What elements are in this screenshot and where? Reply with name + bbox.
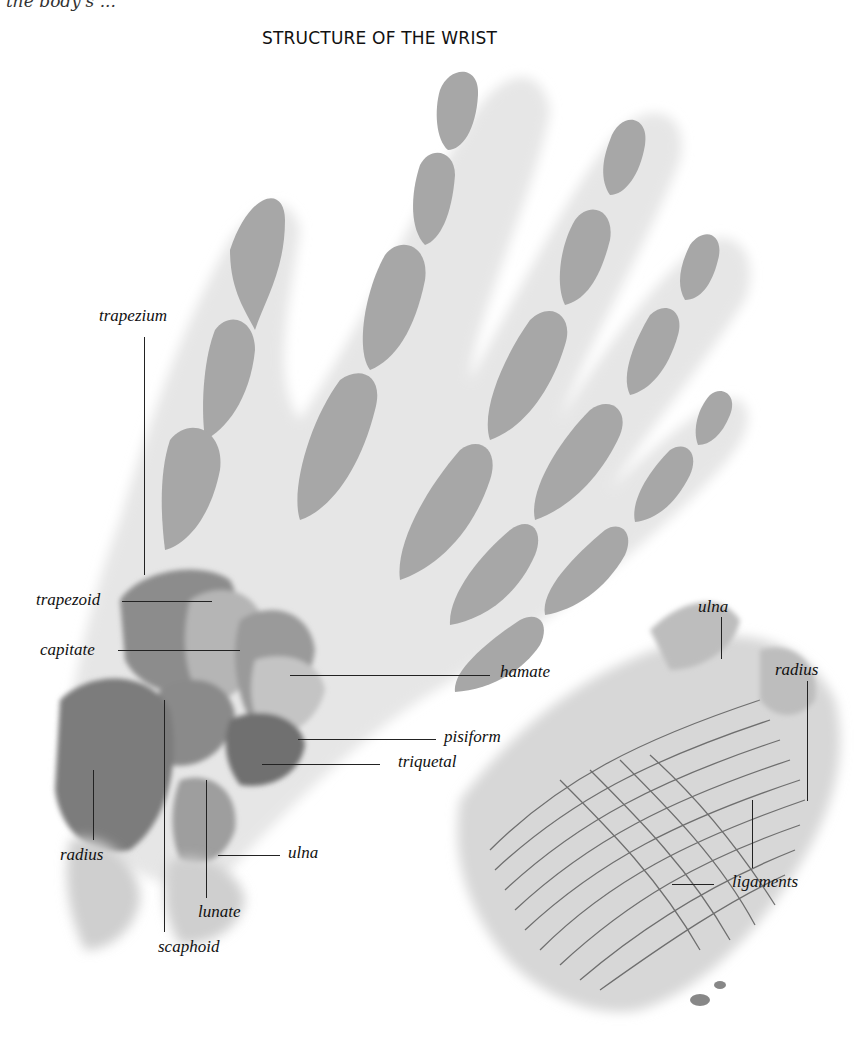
- leader-line-pisiform: [298, 739, 436, 740]
- label-trapezium: trapezium: [99, 306, 167, 326]
- label-ulna-ligament-view: ulna: [698, 597, 728, 617]
- leader-line-ligaments: [672, 884, 714, 885]
- leader-line-trapezoid: [122, 601, 212, 602]
- label-triquetal: triquetal: [398, 752, 457, 772]
- leader-line-radius-ligament-view: [807, 681, 808, 801]
- leader-line-scaphoid: [164, 700, 165, 932]
- leader-line-hamate: [290, 675, 490, 676]
- leader-line-capitate: [118, 650, 240, 651]
- leader-line-triquetal: [262, 764, 380, 765]
- label-scaphoid: scaphoid: [158, 937, 219, 957]
- leader-line-lunate: [206, 780, 207, 898]
- leader-line-ulna: [218, 855, 280, 856]
- leader-line-ulna-ligament-view: [721, 617, 722, 659]
- label-ligaments: ligaments: [732, 872, 798, 892]
- leader-line-trapezium: [144, 337, 145, 575]
- label-lunate: lunate: [198, 902, 241, 922]
- label-trapezoid: trapezoid: [36, 590, 100, 610]
- label-hamate: hamate: [500, 662, 550, 682]
- label-pisiform: pisiform: [444, 727, 501, 747]
- label-ulna: ulna: [288, 843, 318, 863]
- leader-line-radius: [93, 770, 94, 840]
- leader-line-ligaments-vertical: [752, 800, 753, 868]
- label-capitate: capitate: [40, 640, 95, 660]
- label-radius: radius: [60, 845, 103, 865]
- label-radius-ligament-view: radius: [775, 660, 818, 680]
